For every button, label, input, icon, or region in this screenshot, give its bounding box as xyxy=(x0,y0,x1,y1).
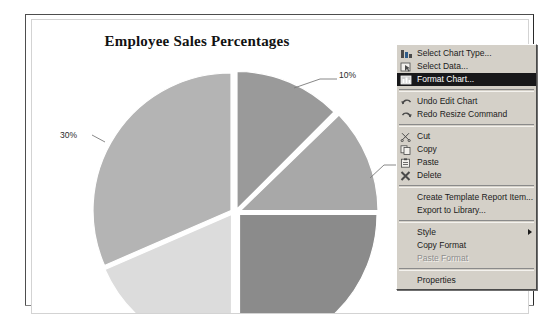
menu-item-label: Properties xyxy=(417,275,456,285)
pie-slice[interactable] xyxy=(240,215,378,315)
menu-separator xyxy=(399,89,534,92)
menu-item-cut[interactable]: Cut xyxy=(397,130,536,143)
menu-item-label: Copy Format xyxy=(417,240,466,250)
menu-item-select-data[interactable]: Select Data... xyxy=(397,60,536,73)
menu-separator xyxy=(399,124,534,127)
menu-item-label: Copy xyxy=(417,144,437,154)
menu-item-paste-format: Paste Format xyxy=(397,252,536,265)
menu-separator xyxy=(399,185,534,188)
redo-icon xyxy=(400,110,413,120)
menu-item-style[interactable]: Style xyxy=(397,226,536,239)
menu-item-label: Format Chart... xyxy=(417,74,474,84)
select-data-icon xyxy=(400,62,413,72)
menu-item-undo-edit-chart[interactable]: Undo Edit Chart xyxy=(397,95,536,108)
menu-item-label: Style xyxy=(417,227,436,237)
menu-item-create-template-report-item[interactable]: Create Template Report Item... xyxy=(397,191,536,204)
menu-separator xyxy=(399,220,534,223)
undo-icon xyxy=(400,97,413,107)
menu-item-redo-resize-command[interactable]: Redo Resize Command xyxy=(397,108,536,121)
menu-item-label: Undo Edit Chart xyxy=(417,96,477,106)
menu-item-copy[interactable]: Copy xyxy=(397,143,536,156)
menu-item-select-chart-type[interactable]: Select Chart Type... xyxy=(397,47,536,60)
pie-data-label: 30% xyxy=(60,130,77,140)
menu-separator xyxy=(399,268,534,271)
menu-item-label: Redo Resize Command xyxy=(417,109,507,119)
scissors-icon xyxy=(400,132,413,142)
menu-item-label: Paste xyxy=(417,157,439,167)
format-chart-icon xyxy=(400,75,413,85)
menu-item-label: Delete xyxy=(417,170,442,180)
menu-item-delete[interactable]: Delete xyxy=(397,169,536,182)
context-menu[interactable]: Select Chart Type...Select Data...Format… xyxy=(396,44,537,290)
delete-icon xyxy=(400,171,413,181)
menu-item-label: Paste Format xyxy=(417,253,468,263)
menu-item-label: Select Data... xyxy=(417,61,468,71)
menu-item-label: Create Template Report Item... xyxy=(417,192,533,202)
leader-line-30 xyxy=(92,135,105,142)
submenu-arrow-icon xyxy=(528,229,532,235)
chart-type-icon xyxy=(400,49,413,59)
report-designer-canvas: Employee Sales Percentages xyxy=(0,0,560,333)
paste-icon xyxy=(400,158,413,168)
menu-item-label: Select Chart Type... xyxy=(417,48,492,58)
copy-icon xyxy=(400,145,413,155)
menu-item-copy-format[interactable]: Copy Format xyxy=(397,239,536,252)
menu-item-export-to-library[interactable]: Export to Library... xyxy=(397,204,536,217)
menu-item-label: Export to Library... xyxy=(417,205,486,215)
menu-item-format-chart[interactable]: Format Chart... xyxy=(397,73,536,86)
menu-item-paste[interactable]: Paste xyxy=(397,156,536,169)
menu-item-label: Cut xyxy=(417,131,430,141)
menu-item-properties[interactable]: Properties xyxy=(397,274,536,287)
pie-data-label: 10% xyxy=(339,70,356,80)
